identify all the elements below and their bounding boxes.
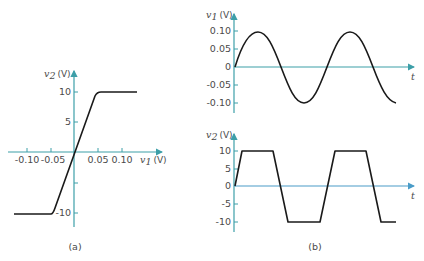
panel-a-x-tick-label: 0.05 bbox=[87, 154, 108, 165]
panel-b-bottom-y-tick-label: -5 bbox=[222, 198, 231, 209]
panel-a-y-tick-label: 5 bbox=[65, 116, 71, 127]
panel-a-x-tick-label: -0.10 bbox=[15, 154, 40, 165]
panel-b-top-y-tick-label: 0.10 bbox=[210, 25, 231, 36]
panel-b-bottom-y-tick-label: 0 bbox=[225, 180, 231, 191]
panel-b-caption: (b) bbox=[308, 241, 321, 252]
panel-b-bottom-x-axis-title: t bbox=[411, 190, 415, 201]
panel-b-bottom-y-tick-label: 5 bbox=[225, 163, 231, 174]
panel-a-x-tick-label: 0.10 bbox=[111, 154, 132, 165]
panel-b-top-y-tick-label: 0.05 bbox=[210, 43, 231, 54]
figure: -0.10 -0.05 0.05 0.10 10 5 -10 v2(V) v1(… bbox=[0, 0, 424, 261]
panel-b-bottom-y-axis-title: v2(V) bbox=[206, 129, 233, 142]
panel-b-bottom-y-tick-label: -10 bbox=[215, 216, 231, 227]
panel-b-top-y-tick-label: -0.05 bbox=[206, 79, 231, 90]
panel-b-top-y-axis-title: v1(V) bbox=[206, 9, 233, 22]
panel-b-bottom-v2-output: 10 5 0 -5 -10 v2(V) t (b) bbox=[206, 129, 415, 252]
panel-b-top-x-axis-title: t bbox=[411, 71, 415, 82]
panel-b-bottom-y-tick-label: 10 bbox=[219, 145, 231, 156]
panel-b-top-v1-input: 0.10 0.05 0 -0.05 -0.10 v1(V) t bbox=[206, 9, 415, 113]
panel-a-y-tick-label: 10 bbox=[59, 86, 71, 97]
panel-a-x-axis-title: v1(V) bbox=[140, 154, 167, 167]
panel-a-y-axis-title: v2(V) bbox=[44, 68, 71, 81]
panel-a-y-tick-label: -10 bbox=[55, 207, 71, 218]
panel-a-transfer-characteristic: -0.10 -0.05 0.05 0.10 10 5 -10 v2(V) v1(… bbox=[8, 68, 167, 252]
panel-a-transfer-curve bbox=[14, 92, 137, 214]
panel-b-top-y-tick-label: 0 bbox=[225, 61, 231, 72]
panel-a-caption: (a) bbox=[68, 241, 81, 252]
panel-b-top-y-tick-label: -0.10 bbox=[206, 97, 231, 108]
panel-a-x-tick-label: -0.05 bbox=[41, 154, 66, 165]
